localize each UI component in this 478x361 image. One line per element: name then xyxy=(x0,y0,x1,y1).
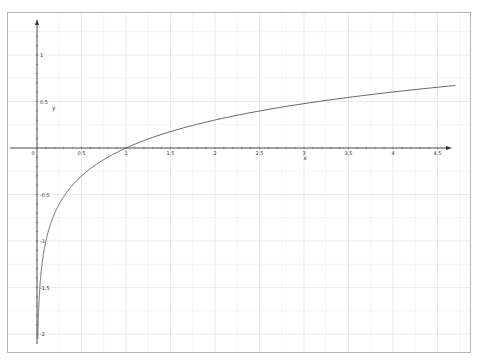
x-tick-label: 3.5 xyxy=(345,150,353,156)
x-axis-arrow-icon xyxy=(446,146,452,150)
x-tick-label: 1.5 xyxy=(167,150,175,156)
x-tick-label: 2.5 xyxy=(256,150,264,156)
y-axis-arrow-icon xyxy=(35,19,39,25)
x-tick-label: 0.5 xyxy=(78,150,86,156)
y-axis-label: y xyxy=(52,104,56,112)
line-chart: 00.511.522.533.544.510.5-0.5-1-1.5-2 x y xyxy=(0,0,478,361)
x-tick-label: 0 xyxy=(31,150,34,156)
grid-lines xyxy=(8,13,470,352)
y-tick-label: -0.5 xyxy=(40,192,50,198)
y-tick-label: 0.5 xyxy=(40,99,48,105)
y-tick-label: -1.5 xyxy=(40,285,50,291)
x-tick-label: 4 xyxy=(391,150,394,156)
x-tick-label: 1 xyxy=(124,150,127,156)
y-tick-label: 1 xyxy=(40,52,43,58)
x-axis-label: x xyxy=(303,154,307,161)
y-tick-label: -2 xyxy=(40,331,45,337)
y-tick-label: -1 xyxy=(40,238,45,244)
x-tick-label: 2 xyxy=(213,150,216,156)
function-curve xyxy=(38,85,456,339)
x-tick-label: 4.5 xyxy=(434,150,442,156)
